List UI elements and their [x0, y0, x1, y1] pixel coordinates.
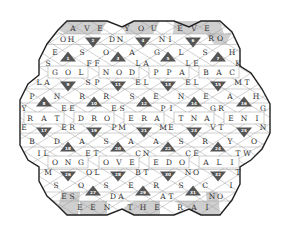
triangle-number: 25: [241, 128, 247, 133]
letter-cell: P: [29, 92, 34, 101]
triangle-number: 12: [141, 101, 147, 106]
letter-cell: S: [45, 59, 50, 68]
letter-cell: A: [128, 48, 135, 57]
letter-cell: T: [235, 149, 240, 158]
letter-cell: G: [210, 104, 216, 113]
letter-cell: B: [29, 137, 35, 146]
letter-cell: F: [94, 59, 99, 68]
letter-cell: E: [128, 181, 133, 190]
letter-cell: P: [160, 104, 165, 113]
letter-cell: A: [153, 114, 160, 123]
letter-cell: M: [159, 123, 167, 132]
letter-cell: E: [111, 104, 116, 113]
letter-cell: E: [193, 149, 198, 158]
letter-cell: E: [52, 48, 57, 57]
letter-cell: R: [141, 114, 147, 123]
letter-cell: N: [143, 149, 150, 158]
letter-cell: T: [93, 149, 98, 158]
letter-cell: S: [178, 181, 183, 190]
triangle-number: 28: [115, 172, 121, 177]
letter-cell: T: [168, 192, 173, 201]
letter-cell: S: [129, 92, 134, 101]
letter-cell: A: [226, 92, 233, 101]
triangle-number: 9: [67, 82, 70, 87]
letter-cell: E: [97, 24, 102, 33]
letter-cell: L: [186, 59, 191, 68]
letter-cell: S: [79, 48, 84, 57]
letter-cell: A: [69, 24, 76, 33]
letter-cell: C: [135, 149, 141, 158]
triangle-number: 27: [90, 190, 96, 195]
letter-cell: H: [68, 35, 75, 44]
letter-cell: N: [54, 92, 61, 101]
letter-cell: N: [191, 114, 198, 123]
letter-cell: I: [38, 149, 41, 158]
letter-cell: A: [215, 68, 222, 77]
letter-cell: V: [115, 158, 122, 167]
letter-cell: P: [94, 78, 99, 87]
letter-cell: H: [229, 48, 236, 57]
letter-cell: U: [151, 24, 157, 33]
letter-cell: B: [135, 168, 141, 177]
letter-cell: A: [178, 68, 185, 77]
letter-cell: A: [43, 78, 50, 87]
letter-cell: N: [185, 168, 192, 177]
letter-cell: T: [178, 114, 183, 123]
letter-cell: O: [116, 68, 122, 77]
letter-cell: C: [202, 181, 208, 190]
letter-cell: C: [185, 149, 191, 158]
letter-cell: N: [159, 35, 166, 44]
letter-cell: O: [65, 68, 71, 77]
hexagonal-word-puzzle: 1234567891011121314151617181920212223242…: [0, 0, 290, 233]
letter-cell: E: [21, 123, 26, 132]
triangle-number: 23: [191, 128, 197, 133]
letter-cell: S: [85, 78, 90, 87]
letter-cells: AVEYOUEVEOHDNNIROESOAGLSHSFFLALEKGOLNODP…: [21, 24, 267, 212]
letter-cell: H: [253, 92, 260, 101]
triangle-number: 5: [167, 56, 170, 61]
letter-cell: T: [54, 114, 59, 123]
letter-cell: E: [185, 78, 190, 87]
letter-cell: H: [140, 203, 147, 212]
triangle-number: 31: [190, 190, 196, 195]
letter-cell: N: [209, 192, 216, 201]
letter-cell: O: [103, 48, 109, 57]
letter-cell: R: [79, 92, 85, 101]
letter-cell: E: [204, 24, 209, 33]
triangle-number: 4: [142, 38, 145, 43]
letter-cell: A: [117, 192, 124, 201]
triangle-number: 2: [92, 38, 95, 43]
triangle-number: 17: [41, 128, 47, 133]
letter-cell: V: [83, 24, 90, 33]
letter-cell: M: [44, 168, 52, 177]
letter-cell: M: [118, 123, 126, 132]
triangle-number: 18: [65, 146, 71, 151]
letter-cell: S: [119, 104, 124, 113]
letter-cell: P: [153, 68, 158, 77]
letter-cell: L: [194, 78, 199, 87]
letter-cell: R: [103, 92, 109, 101]
triangle-number: 3: [117, 56, 120, 61]
letter-cell: A: [127, 137, 134, 146]
letter-cell: R: [202, 137, 208, 146]
triangle-number: 21: [141, 128, 147, 133]
letter-cell: S: [103, 181, 108, 190]
letter-cell: L: [37, 78, 42, 87]
letter-cell: O: [217, 192, 223, 201]
letter-cell: O: [103, 158, 109, 167]
letter-cell: O: [60, 35, 66, 44]
letter-cell: A: [78, 137, 85, 146]
letter-cell: D: [109, 35, 115, 44]
letter-cell: O: [179, 158, 185, 167]
letter-cell: P: [111, 123, 116, 132]
letter-cell: L: [95, 168, 100, 177]
triangle-number: 19: [91, 128, 97, 133]
letter-cell: N: [104, 203, 111, 212]
letter-cell: E: [135, 78, 140, 87]
letter-cell: E: [77, 203, 82, 212]
letter-cell: E: [228, 114, 233, 123]
letter-cell: D: [78, 114, 84, 123]
letter-cell: E: [85, 149, 90, 158]
letter-cell: I: [170, 104, 173, 113]
triangle-number: 14: [191, 101, 197, 106]
